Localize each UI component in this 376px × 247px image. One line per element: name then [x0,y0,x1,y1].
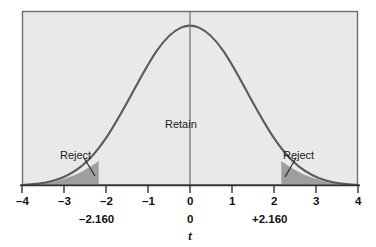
x-tick-label-1: 1 [229,196,235,208]
x-tick-label-3: 3 [313,196,319,208]
x-tick-label-minus-4: –4 [16,196,29,208]
chart-figure: Retain Reject Reject –4 –3 –2 –1 0 1 2 3… [0,0,376,247]
x-axis-title: t [188,231,192,243]
x-tick-label-0: 0 [187,196,193,208]
retain-region-label: Retain [165,119,197,130]
left-reject-label: Reject [60,150,91,161]
x-tick-label-2: 2 [271,196,277,208]
x-tick-label-minus-2: –2 [100,196,113,208]
x-tick-label-4: 4 [355,196,361,208]
right-reject-label: Reject [283,150,314,161]
critical-value-label-upper: +2.160 [252,214,288,226]
x-tick-label-minus-1: –1 [142,196,155,208]
x-tick-label-minus-3: –3 [58,196,71,208]
critical-value-label-lower: –2.160 [79,214,114,226]
critical-value-label-center: 0 [187,214,193,226]
